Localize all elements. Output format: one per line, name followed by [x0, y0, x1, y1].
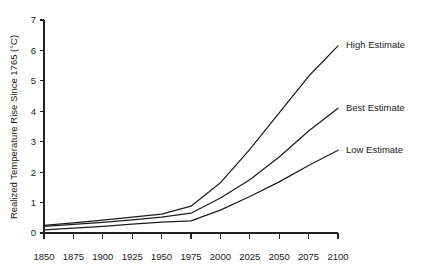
series-label-high-estimate: High Estimate	[346, 39, 405, 50]
y-tick-label: 0	[31, 227, 36, 238]
series-line-high-estimate	[44, 46, 338, 226]
x-tick-label: 1850	[33, 251, 54, 262]
y-tick-label: 3	[31, 136, 36, 147]
series-label-best-estimate: Best Estimate	[346, 102, 405, 113]
x-tick-label: 2025	[239, 251, 260, 262]
y-tick-label: 6	[31, 45, 36, 56]
series-labels: High EstimateBest EstimateLow Estimate	[346, 39, 405, 154]
x-tick-label: 1900	[92, 251, 113, 262]
x-tick-label: 1925	[122, 251, 143, 262]
y-tick-label: 1	[31, 197, 36, 208]
x-tick-label: 1950	[151, 251, 172, 262]
x-tick-label: 1975	[180, 251, 201, 262]
y-tick-label: 2	[31, 167, 36, 178]
x-tick-label: 2100	[327, 251, 348, 262]
x-axis-ticks: 1850187519001925195019752000202520502075…	[33, 233, 348, 262]
y-tick-label: 5	[31, 75, 36, 86]
series-line-best-estimate	[44, 108, 338, 226]
line-chart: Realized Temperature Rise Since 1765 (°C…	[0, 0, 423, 276]
y-axis-title-group: Realized Temperature Rise Since 1765 (°C…	[8, 35, 19, 219]
y-tick-label: 7	[31, 14, 36, 25]
chart-container: Realized Temperature Rise Since 1765 (°C…	[0, 0, 423, 276]
x-tick-label: 2075	[298, 251, 319, 262]
x-tick-label: 2050	[269, 251, 290, 262]
y-axis-title: Realized Temperature Rise Since 1765 (°C…	[8, 35, 19, 219]
series-lines	[44, 46, 338, 230]
series-line-low-estimate	[44, 150, 338, 230]
x-tick-label: 2000	[210, 251, 231, 262]
series-label-low-estimate: Low Estimate	[346, 144, 403, 155]
x-tick-label: 1875	[63, 251, 84, 262]
y-tick-label: 4	[31, 106, 36, 117]
y-axis-ticks: 01234567	[31, 14, 44, 238]
